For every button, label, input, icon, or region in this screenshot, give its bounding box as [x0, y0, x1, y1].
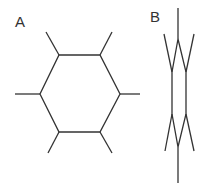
hexagon-ring [172, 39, 186, 147]
substituent-bond-line [165, 114, 172, 151]
substituent-bond-line [100, 132, 112, 153]
hexagon-ring [40, 55, 120, 132]
diagram-figure: A B [0, 0, 205, 188]
panel-b-hexagon-side-view [164, 8, 194, 183]
substituent-bond-line [48, 132, 59, 153]
substituent-bond-line [46, 32, 59, 55]
substituent-bond-line [186, 34, 194, 72]
panel-a-hexagon-top-view [15, 32, 140, 153]
substituent-bond-line [186, 114, 194, 151]
panel-b-label: B [150, 9, 160, 24]
hexagon-diagram-canvas [0, 0, 205, 188]
substituent-bond-line [100, 32, 112, 55]
panel-a-label: A [15, 14, 25, 29]
substituent-bond-line [164, 34, 172, 72]
